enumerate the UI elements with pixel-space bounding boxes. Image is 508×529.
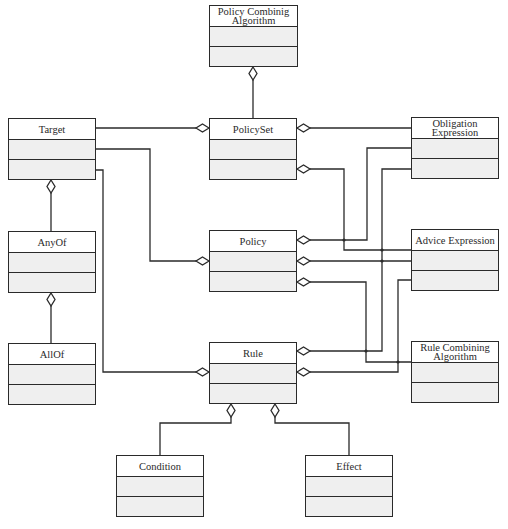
class-condition[interactable]: Condition bbox=[116, 455, 204, 517]
class-name: PolicySet bbox=[210, 119, 296, 140]
class-name: Obligation Expression bbox=[412, 118, 498, 139]
attributes-compartment bbox=[412, 139, 498, 159]
class-advice-expression[interactable]: Advice Expression bbox=[411, 229, 499, 291]
attributes-compartment bbox=[210, 140, 296, 160]
operations-compartment bbox=[9, 160, 95, 179]
attributes-compartment bbox=[306, 477, 392, 497]
link-rule-obligation bbox=[297, 169, 411, 355]
attributes-compartment bbox=[210, 364, 296, 384]
class-rule-combining-algorithm[interactable]: Rule Combining Algorithm bbox=[411, 341, 499, 403]
link-policyset-obligation bbox=[297, 124, 411, 132]
attributes-compartment bbox=[9, 253, 95, 273]
operations-compartment bbox=[117, 497, 203, 516]
operations-compartment bbox=[412, 383, 498, 402]
link-pca-policyset bbox=[249, 67, 257, 118]
operations-compartment bbox=[306, 497, 392, 516]
class-policy[interactable]: Policy bbox=[209, 230, 297, 292]
attributes-compartment bbox=[9, 365, 95, 385]
class-name: Advice Expression bbox=[412, 230, 498, 251]
link-target-anyof bbox=[47, 180, 55, 231]
link-target-policy bbox=[96, 149, 209, 265]
attributes-compartment bbox=[412, 363, 498, 383]
class-allof[interactable]: AllOf bbox=[8, 343, 96, 405]
link-target-rule bbox=[96, 170, 209, 376]
class-policyset[interactable]: PolicySet bbox=[209, 118, 297, 180]
class-name: Condition bbox=[117, 456, 203, 477]
attributes-compartment bbox=[412, 251, 498, 271]
operations-compartment bbox=[412, 271, 498, 290]
operations-compartment bbox=[210, 272, 296, 291]
class-effect[interactable]: Effect bbox=[305, 455, 393, 517]
link-anyof-allof bbox=[47, 293, 55, 343]
link-policy-rca bbox=[297, 278, 411, 362]
uml-diagram-canvas: Policy Combinig Algorithm Target PolicyS… bbox=[0, 0, 508, 529]
operations-compartment bbox=[9, 385, 95, 404]
class-rule[interactable]: Rule bbox=[209, 342, 297, 404]
link-policyset-advice bbox=[297, 165, 411, 250]
line-junction-dots bbox=[342, 238, 399, 363]
class-name: Rule Combining Algorithm bbox=[412, 342, 498, 363]
link-policy-obligation bbox=[297, 148, 411, 244]
link-target-policyset bbox=[96, 124, 209, 132]
class-target[interactable]: Target bbox=[8, 118, 96, 180]
link-rule-effect bbox=[271, 404, 349, 455]
class-name: Target bbox=[9, 119, 95, 140]
operations-compartment bbox=[210, 47, 297, 66]
attributes-compartment bbox=[210, 252, 296, 272]
link-rule-condition bbox=[160, 404, 235, 455]
class-name: Effect bbox=[306, 456, 392, 477]
class-name: Rule bbox=[210, 343, 296, 364]
operations-compartment bbox=[412, 159, 498, 178]
operations-compartment bbox=[210, 160, 296, 179]
attributes-compartment bbox=[9, 140, 95, 160]
operations-compartment bbox=[210, 384, 296, 403]
class-name: Policy bbox=[210, 231, 296, 252]
attributes-compartment bbox=[210, 27, 297, 47]
class-anyof[interactable]: AnyOf bbox=[8, 231, 96, 293]
attributes-compartment bbox=[117, 477, 203, 497]
class-policy-combining-algorithm[interactable]: Policy Combinig Algorithm bbox=[209, 5, 298, 67]
operations-compartment bbox=[9, 273, 95, 292]
class-name: Policy Combinig Algorithm bbox=[210, 6, 297, 27]
link-policy-advice bbox=[297, 257, 411, 265]
class-name: AllOf bbox=[9, 344, 95, 365]
class-name: AnyOf bbox=[9, 232, 95, 253]
class-obligation-expression[interactable]: Obligation Expression bbox=[411, 117, 499, 179]
